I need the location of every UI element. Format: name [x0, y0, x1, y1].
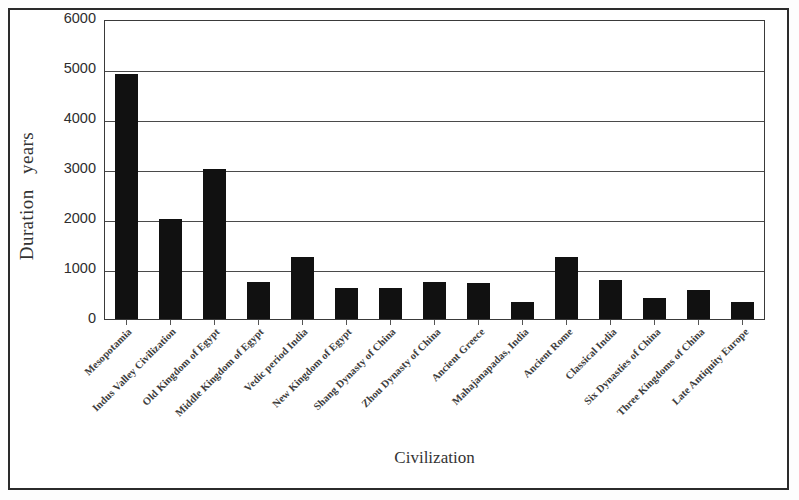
bar-slot [237, 21, 281, 319]
bar [203, 169, 226, 319]
y-axis-tick-label: 2000 [28, 211, 96, 225]
chart-page: Duration years 6000500040003000200010000… [0, 0, 799, 500]
tick-mark [302, 320, 303, 325]
y-axis-tick-label: 0 [28, 311, 96, 325]
bar-slot [413, 21, 457, 319]
bar-slot [500, 21, 544, 319]
bar-slot [193, 21, 237, 319]
tick-mark [698, 320, 699, 325]
tick-mark [434, 320, 435, 325]
bar [379, 288, 402, 320]
y-axis-tick-label: 4000 [28, 111, 96, 125]
tick-mark [654, 320, 655, 325]
tick-mark [742, 320, 743, 325]
bar-slot [588, 21, 632, 319]
bar-slot [544, 21, 588, 319]
bar [115, 74, 138, 319]
y-axis-tick-label: 3000 [28, 161, 96, 175]
bar-slot [720, 21, 764, 319]
y-axis-tick-labels: 6000500040003000200010000 [28, 18, 96, 322]
y-axis-tick-label: 1000 [28, 261, 96, 275]
bar-slot [632, 21, 676, 319]
bar [335, 288, 358, 319]
bar-series [105, 21, 764, 319]
tick-mark [478, 320, 479, 325]
bar-slot [457, 21, 501, 319]
bar [423, 282, 446, 320]
bar [687, 290, 710, 319]
bar [511, 302, 534, 320]
bar [555, 257, 578, 320]
tick-mark [610, 320, 611, 325]
tick-mark [566, 320, 567, 325]
bar [731, 302, 754, 320]
bar-slot [281, 21, 325, 319]
bar-slot [149, 21, 193, 319]
tick-mark [390, 320, 391, 325]
tick-mark [126, 320, 127, 325]
bar-slot [369, 21, 413, 319]
tick-mark [346, 320, 347, 325]
bar-slot [325, 21, 369, 319]
x-axis-title: Civilization [104, 448, 765, 468]
bar [599, 280, 622, 319]
x-axis-category-labels: MesopotamiaIndus Valley CivilizationOld … [104, 326, 765, 436]
plot-area [104, 20, 765, 320]
y-axis-tick-label: 5000 [28, 61, 96, 75]
tick-mark [170, 320, 171, 325]
y-axis-tick-label: 6000 [28, 11, 96, 25]
bar [159, 219, 182, 319]
bar-chart-figure: Duration years 6000500040003000200010000… [0, 0, 799, 500]
bar [291, 257, 314, 320]
tick-mark [258, 320, 259, 325]
bar [247, 282, 270, 320]
bar [643, 298, 666, 319]
tick-mark [522, 320, 523, 325]
bar [467, 283, 490, 319]
bar-slot [105, 21, 149, 319]
tick-mark [214, 320, 215, 325]
bar-slot [676, 21, 720, 319]
